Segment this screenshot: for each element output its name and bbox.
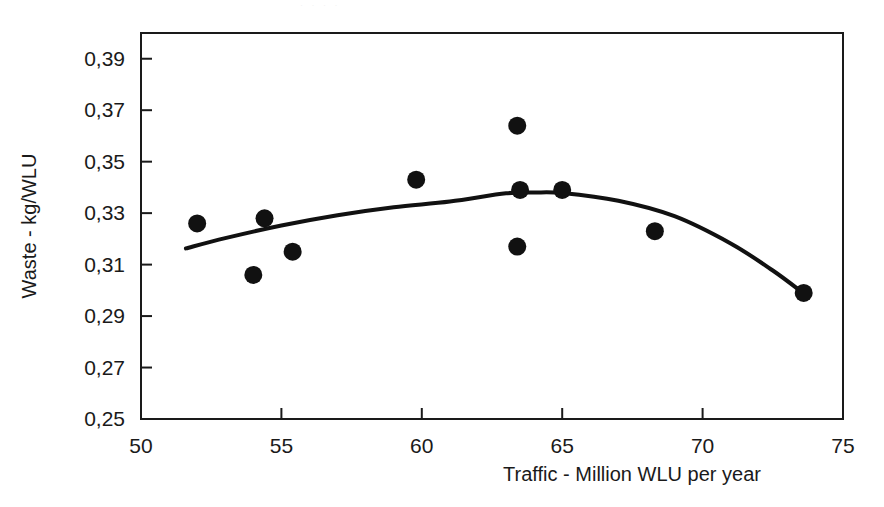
x-axis-tick-label: 70 <box>691 434 714 457</box>
data-point <box>188 214 206 232</box>
x-axis-tick-label: 65 <box>551 434 574 457</box>
data-point <box>244 266 262 284</box>
x-axis-tick-label: 75 <box>831 434 854 457</box>
data-point <box>508 117 526 135</box>
y-axis-tick-label: 0,37 <box>84 98 125 121</box>
plot-frame <box>141 33 843 419</box>
chart-figure: · · · · 0,250,270,290,310,330,350,370,39… <box>0 0 884 507</box>
x-axis-tick-label: 50 <box>129 434 152 457</box>
data-point <box>508 238 526 256</box>
y-axis-title: Waste - kg/WLU <box>18 154 40 299</box>
x-axis-tick-label: 55 <box>270 434 293 457</box>
data-point <box>407 171 425 189</box>
y-axis-tick-label: 0,31 <box>84 253 125 276</box>
y-axis-tick-label: 0,29 <box>84 304 125 327</box>
y-axis-tick-label: 0,33 <box>84 201 125 224</box>
data-point <box>646 222 664 240</box>
data-point <box>284 243 302 261</box>
data-point <box>795 284 813 302</box>
trend-line <box>186 192 804 293</box>
y-axis-tick-label: 0,35 <box>84 150 125 173</box>
data-point <box>511 181 529 199</box>
data-point <box>256 209 274 227</box>
scatter-plot: 0,250,270,290,310,330,350,370,3950556065… <box>0 0 884 507</box>
y-axis-tick-label: 0,27 <box>84 356 125 379</box>
x-axis-title: Traffic - Million WLU per year <box>503 463 761 485</box>
y-axis-tick-label: 0,25 <box>84 407 125 430</box>
x-axis-tick-label: 60 <box>410 434 433 457</box>
y-axis-tick-label: 0,39 <box>84 47 125 70</box>
data-point <box>553 181 571 199</box>
